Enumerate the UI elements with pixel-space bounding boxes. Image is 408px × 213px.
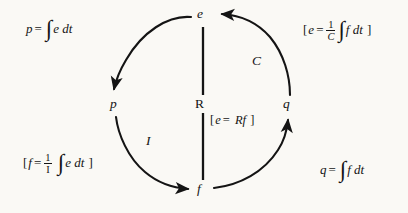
- eq-r-coefficient: R: [235, 113, 243, 127]
- eq-c-numerator: 1: [326, 19, 335, 31]
- node-p-momentum: p: [110, 97, 117, 111]
- arrow-f-to-q: [214, 120, 288, 188]
- eq-c-equals: =: [314, 22, 325, 37]
- eq-i-differential: dt: [74, 155, 84, 170]
- eq-c-differential: dt: [353, 22, 363, 37]
- fraction-one-over-I: 1I: [43, 152, 52, 175]
- eq-c-integrand: f: [346, 22, 350, 37]
- eq-r-equals: =: [221, 113, 232, 127]
- equation-flow-inertance-bottom-left: [f=1I ∫e dt ]: [22, 152, 94, 175]
- eq-q-lhs: q: [320, 162, 327, 177]
- equation-effort-capacitance-top-right: [e=1C∫f dt ]: [302, 19, 372, 42]
- arc-label-I-inertance: I: [146, 134, 151, 148]
- eq-i-denominator: I: [44, 164, 51, 175]
- eq-r-lhs: e: [215, 113, 221, 127]
- arc-label-C-capacitance: C: [252, 54, 261, 68]
- equation-charge-bottom-right: q=∫f dt: [320, 163, 364, 176]
- eq-r-variable: f: [243, 113, 246, 127]
- node-q-charge: q: [283, 97, 290, 111]
- integral-icon: ∫: [338, 157, 347, 182]
- eq-i-equals: =: [32, 155, 43, 170]
- equation-effort-resistance-center: [e= Rf ]: [209, 114, 255, 127]
- fraction-one-over-C: 1C: [325, 19, 336, 42]
- node-e-effort: e: [197, 7, 203, 21]
- integral-icon: ∫: [336, 17, 345, 42]
- eq-q-integrand: f: [347, 162, 351, 177]
- eq-r-close-bracket: ]: [249, 113, 255, 127]
- eq-p-lhs: p: [26, 21, 33, 36]
- integral-icon: ∫: [56, 150, 65, 175]
- eq-i-numerator: 1: [44, 152, 51, 164]
- eq-q-equals: =: [327, 162, 338, 177]
- node-f-flow: f: [197, 182, 201, 196]
- node-R-resistance: R: [195, 97, 204, 111]
- arrow-p-to-f: [116, 117, 188, 189]
- equation-momentum-top-left: p=∫e dt: [26, 22, 72, 35]
- eq-c-close-bracket: ]: [366, 22, 372, 37]
- eq-i-integrand: e: [65, 155, 71, 170]
- eq-p-equals: =: [33, 21, 44, 36]
- integral-icon: ∫: [44, 16, 53, 41]
- eq-c-denominator: C: [326, 31, 335, 42]
- eq-p-differential: dt: [62, 21, 72, 36]
- diagram-canvas: e p q f R C I p=∫e dt [e=1C∫f dt ] [f=1I…: [0, 0, 408, 213]
- arrow-e-to-p: [114, 17, 191, 89]
- eq-q-differential: dt: [354, 162, 364, 177]
- eq-p-integrand: e: [53, 21, 59, 36]
- eq-i-close-bracket: ]: [88, 155, 94, 170]
